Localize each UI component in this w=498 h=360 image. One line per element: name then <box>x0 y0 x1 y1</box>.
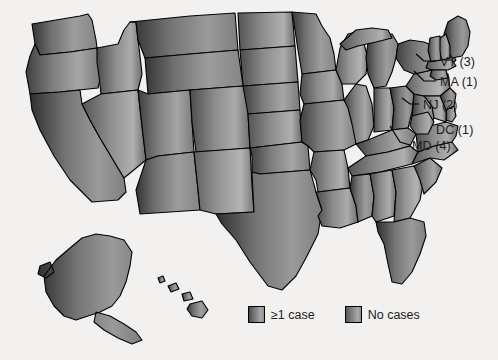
state-nm <box>194 148 254 214</box>
legend-swatch-nocase <box>345 306 362 323</box>
legend-item-nocase: No cases <box>345 306 420 323</box>
us-case-map: VT (3) MA (1) NJ (2) DC (1) MD (4) ≥1 ca… <box>0 0 498 360</box>
state-ut <box>138 90 194 160</box>
callout-label-dc: DC (1) <box>436 123 473 137</box>
state-al <box>370 170 396 222</box>
map-legend: ≥1 case No cases <box>248 306 420 323</box>
state-ks <box>248 110 302 148</box>
state-ne <box>243 82 300 114</box>
state-ia <box>300 70 344 104</box>
callout-label-nj: NJ (2) <box>423 98 458 112</box>
legend-item-case: ≥1 case <box>248 306 315 323</box>
state-ok <box>250 142 310 174</box>
state-sd <box>240 46 298 86</box>
callout-label-ma: MA (1) <box>440 75 477 89</box>
state-fl <box>376 218 426 284</box>
state-mn <box>292 12 336 74</box>
state-co <box>190 86 250 152</box>
state-az <box>136 152 200 214</box>
state-ar <box>310 150 350 192</box>
state-id <box>97 22 142 94</box>
state-shapes <box>26 12 470 344</box>
legend-label-nocase: No cases <box>368 308 420 322</box>
legend-swatch-case <box>248 306 265 323</box>
state-nd <box>238 12 295 50</box>
callout-label-md: MD (4) <box>412 139 451 153</box>
legend-label-case: ≥1 case <box>271 308 315 322</box>
callout-label-vt: VT (3) <box>440 55 475 69</box>
state-wa <box>32 14 97 55</box>
state-hi <box>158 276 208 318</box>
state-ak <box>38 234 142 344</box>
